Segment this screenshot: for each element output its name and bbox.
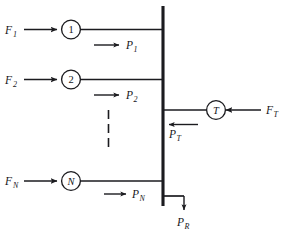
unit-2-output-label: P 2 <box>125 89 138 104</box>
unit-1-node-label: 1 <box>68 24 73 35</box>
unit-n-node-label: N <box>66 176 75 187</box>
one-line-diagram: 1 F 1 P 1 2 F 2 P 2 <box>0 0 287 229</box>
unit-2-group: 2 <box>24 70 163 95</box>
load-r-symbol: P <box>176 216 184 228</box>
unit-1-input-label: F 1 <box>4 24 17 39</box>
unit-n-output-subscript: N <box>139 194 146 203</box>
unit-1-input-symbol: F <box>4 24 13 36</box>
unit-n-output-symbol: P <box>131 188 139 200</box>
diagram-canvas: 1 F 1 P 1 2 F 2 P 2 <box>0 0 287 229</box>
unit-n-group: N <box>24 172 163 194</box>
unit-n-input-label: F N <box>4 175 19 190</box>
unit-2-input-subscript: 2 <box>13 80 17 89</box>
unit-n-input-symbol: F <box>4 175 13 187</box>
tie-t-input-subscript: T <box>274 110 279 119</box>
unit-2-input-symbol: F <box>4 74 13 86</box>
unit-1-output-subscript: 1 <box>134 45 138 54</box>
unit-1-output-symbol: P <box>125 39 133 51</box>
load-r-group <box>163 196 184 210</box>
load-r-subscript: R <box>184 222 190 229</box>
tie-t-output-subscript: T <box>177 134 182 143</box>
unit-2-input-label: F 2 <box>4 74 17 89</box>
unit-n-output-label: P N <box>131 188 146 203</box>
unit-2-output-symbol: P <box>125 89 133 101</box>
unit-1-group: 1 <box>24 20 163 45</box>
tie-t-group: T <box>163 101 261 125</box>
unit-2-node-label: 2 <box>68 74 73 85</box>
unit-n-input-subscript: N <box>12 181 19 190</box>
load-r-label: P R <box>176 216 190 229</box>
unit-1-output-label: P 1 <box>125 39 138 54</box>
unit-1-input-subscript: 1 <box>13 30 17 39</box>
tie-t-output-label: P T <box>168 128 182 143</box>
unit-2-output-subscript: 2 <box>134 95 138 104</box>
tie-t-output-symbol: P <box>168 128 176 140</box>
tie-t-input-label: F T <box>265 104 279 119</box>
